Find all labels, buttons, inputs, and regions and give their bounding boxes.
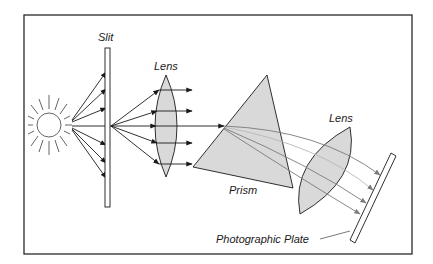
spectrograph-diagram: Slit Lens Prism Lens Photographic Plate — [0, 0, 433, 264]
slit-label: Slit — [98, 31, 114, 43]
plate-label: Photographic Plate — [216, 233, 309, 245]
lens-2-label: Lens — [329, 112, 353, 124]
lens-1-label: Lens — [154, 60, 178, 72]
slit — [105, 48, 110, 207]
diagram-frame — [24, 15, 412, 254]
prism-label: Prism — [229, 184, 257, 196]
